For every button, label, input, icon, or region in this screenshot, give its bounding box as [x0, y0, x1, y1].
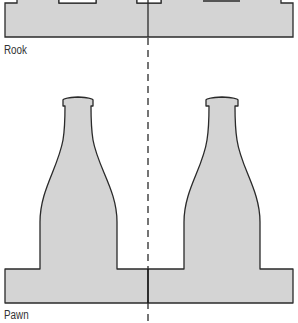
rook-label: Rook	[4, 44, 27, 56]
rook-notch-center	[137, 0, 161, 3]
pawn-base-shape	[5, 97, 293, 303]
pawn-profile	[5, 97, 293, 303]
rook-notch-left	[59, 0, 96, 3]
rook-dark-bar	[203, 0, 240, 2]
chess-piece-profile-diagram: Rook Pawn	[0, 0, 298, 323]
rook-shape	[5, 0, 293, 37]
rook-profile	[5, 0, 293, 37]
pawn-label: Pawn	[4, 309, 29, 321]
